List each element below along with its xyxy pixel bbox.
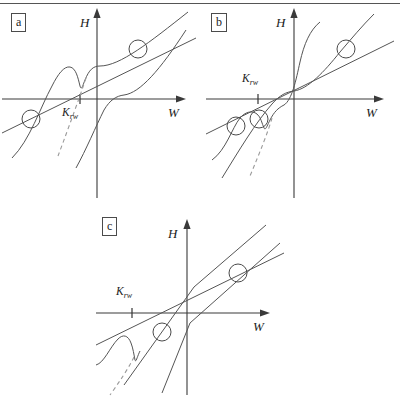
steep-right-branch-a bbox=[76, 95, 124, 168]
h-axis-arrow-a bbox=[93, 8, 100, 18]
figure-root: H W Krw a bbox=[0, 0, 400, 403]
h-axis-c bbox=[183, 219, 190, 395]
shallow-line-a bbox=[2, 38, 196, 133]
w-axis-arrow-a bbox=[176, 95, 186, 102]
panel-c: H W Krw c bbox=[90, 205, 310, 403]
krw-sub-a: rw bbox=[70, 112, 79, 121]
h-axis-arrow-b bbox=[290, 8, 297, 18]
h-axis-label-b: H bbox=[275, 15, 286, 30]
h-axis-a bbox=[93, 8, 100, 198]
dashed-branch-b bbox=[250, 118, 272, 176]
steep-branch2-upper-c bbox=[190, 243, 280, 323]
steep-upper-branch-a bbox=[100, 12, 188, 66]
w-axis-c bbox=[96, 309, 270, 316]
panel-a-plot: H W Krw bbox=[0, 0, 200, 200]
intersection-marker-a-2 bbox=[129, 40, 147, 58]
shallow-line-b bbox=[206, 41, 394, 134]
w-axis-label-a: W bbox=[168, 105, 180, 120]
h-axis-b bbox=[290, 8, 297, 198]
h-axis-label-c: H bbox=[167, 226, 178, 241]
svg-text:Krw: Krw bbox=[61, 106, 79, 121]
panel-b-plot: H W Krw bbox=[200, 0, 400, 200]
svg-text:Krw: Krw bbox=[241, 72, 259, 87]
intersection-marker-c-2 bbox=[229, 264, 247, 282]
steep-left-branch-top-b bbox=[294, 14, 374, 91]
panel-c-plot: H W Krw bbox=[90, 205, 310, 403]
w-axis-arrow-b bbox=[374, 95, 384, 102]
w-axis-arrow-c bbox=[260, 309, 270, 316]
panel-label-a: a bbox=[11, 13, 26, 32]
krw-sub-c: rw bbox=[124, 291, 133, 300]
svg-text:Krw: Krw bbox=[115, 285, 133, 300]
w-axis-label-b: W bbox=[366, 105, 378, 120]
krw-sub-b: rw bbox=[250, 78, 259, 87]
steep-right-branch-top-a bbox=[124, 30, 186, 95]
w-axis-a bbox=[2, 95, 186, 102]
krw-label-a: Krw bbox=[61, 106, 79, 121]
h-axis-arrow-c bbox=[183, 219, 190, 229]
steep-line-lower-c bbox=[124, 287, 194, 385]
intersection-marker-b-2 bbox=[250, 110, 268, 128]
h-axis-label-a: H bbox=[79, 15, 90, 30]
w-axis-b bbox=[206, 95, 384, 102]
detached-hump-c bbox=[96, 336, 140, 365]
w-axis-label-c: W bbox=[253, 319, 265, 334]
krw-label-c: Krw bbox=[115, 285, 133, 300]
panel-a: H W Krw a bbox=[0, 0, 200, 200]
panel-label-c: c bbox=[102, 217, 117, 236]
panel-b: H W Krw b bbox=[200, 0, 400, 200]
steep-branch2-lower-c bbox=[162, 323, 190, 393]
intersection-marker-b-3 bbox=[337, 40, 355, 58]
krw-label-b: Krw bbox=[241, 72, 259, 87]
panel-label-b: b bbox=[211, 13, 227, 32]
